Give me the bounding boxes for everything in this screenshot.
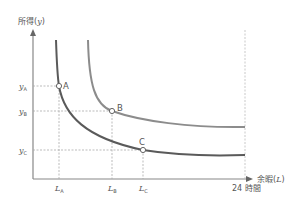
- indifference-curve-diagram: A B C 所得(y) yA yB yC LA LB LC 余暇(L) 24 時…: [0, 0, 304, 208]
- lower-indifference-curve: [56, 40, 245, 155]
- x-tick-a: LA: [54, 184, 64, 194]
- y-tick-a: yA: [18, 82, 28, 92]
- x-axis-arrow-icon: [246, 176, 253, 182]
- point-c-marker: [140, 147, 145, 152]
- y-tick-b: yB: [18, 107, 28, 117]
- y-tick-c: yC: [18, 146, 28, 156]
- point-c-label: C: [139, 137, 145, 147]
- point-a-marker: [56, 83, 61, 88]
- guide-lines: [33, 86, 143, 179]
- point-a-label: A: [63, 81, 69, 91]
- y-axis-arrow-icon: [30, 29, 36, 36]
- axes: [30, 29, 253, 182]
- point-b-label: B: [117, 103, 123, 113]
- y-axis-title: 所得(y): [18, 16, 45, 26]
- x-tick-b: LB: [107, 184, 117, 194]
- point-b-marker: [109, 108, 114, 113]
- x-axis-title: 余暇(L): [257, 174, 285, 184]
- x-tick-c: LC: [138, 184, 148, 194]
- x-axis-max-label: 24 時間: [232, 184, 261, 193]
